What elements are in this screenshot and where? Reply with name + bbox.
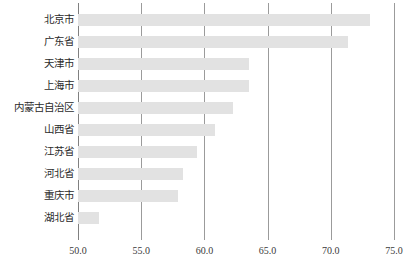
x-tick-label-65.0: 65.0 (238, 245, 298, 256)
bar-chart: 北京市广东省天津市上海市内蒙古自治区山西省江苏省河北省重庆市湖北省 50.055… (0, 0, 417, 269)
bar-上海市 (78, 80, 249, 92)
bar-江苏省 (78, 146, 197, 158)
bar-row (78, 185, 394, 207)
x-tick-label-55.0: 55.0 (111, 245, 171, 256)
gridline-75.0 (394, 3, 395, 240)
category-label-天津市: 天津市 (0, 53, 74, 75)
x-tick-label-50.0: 50.0 (48, 245, 108, 256)
bar-河北省 (78, 168, 183, 180)
bar-row (78, 53, 394, 75)
x-tick-label-70.0: 70.0 (301, 245, 361, 256)
bar-北京市 (78, 14, 370, 26)
category-label-山西省: 山西省 (0, 119, 74, 141)
bar-row (78, 141, 394, 163)
bar-row (78, 119, 394, 141)
category-label-江苏省: 江苏省 (0, 141, 74, 163)
category-label-北京市: 北京市 (0, 9, 74, 31)
category-label-上海市: 上海市 (0, 75, 74, 97)
bar-重庆市 (78, 190, 178, 202)
bar-内蒙古自治区 (78, 102, 233, 114)
category-label-重庆市: 重庆市 (0, 185, 74, 207)
category-label-内蒙古自治区: 内蒙古自治区 (0, 97, 74, 119)
bar-广东省 (78, 36, 348, 48)
bar-row (78, 163, 394, 185)
bar-row (78, 97, 394, 119)
x-tick-label-75.0: 75.0 (364, 245, 417, 256)
bar-row (78, 75, 394, 97)
bar-湖北省 (78, 212, 99, 224)
bar-row (78, 31, 394, 53)
bar-row (78, 9, 394, 31)
category-label-广东省: 广东省 (0, 31, 74, 53)
bar-row (78, 207, 394, 229)
category-label-湖北省: 湖北省 (0, 207, 74, 229)
x-tick-label-60.0: 60.0 (174, 245, 234, 256)
bar-天津市 (78, 58, 249, 70)
plot-area (78, 3, 394, 240)
category-label-河北省: 河北省 (0, 163, 74, 185)
bar-山西省 (78, 124, 215, 136)
